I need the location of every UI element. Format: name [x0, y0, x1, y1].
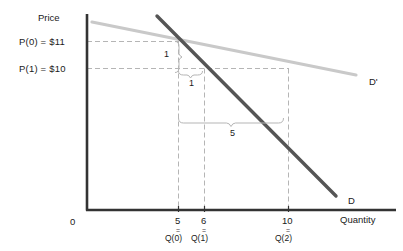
x-tick-name-q2: Q(2): [275, 234, 292, 243]
y-axis-title: Price: [38, 13, 60, 23]
curve-label-d: D: [348, 196, 355, 206]
x-tick-name-q1: Q(1): [191, 234, 208, 243]
x-tick-name-q0: Q(0): [165, 234, 182, 243]
annotation-qty-delta-large: 5: [230, 129, 235, 138]
curve-label-d-prime: D': [369, 77, 378, 87]
price-label-p1: P(1) = $10: [19, 64, 66, 74]
x-tick-label-10: 10: [282, 216, 293, 226]
price-label-p0: P(0) = $11: [19, 37, 65, 47]
x-axis-title: Quantity: [340, 215, 375, 225]
x-tick-label-5: 5: [175, 216, 180, 226]
origin-label: 0: [70, 217, 75, 227]
annotation-price-delta: 1: [164, 50, 169, 59]
x-tick-label-6: 6: [201, 216, 206, 226]
annotation-qty-delta-small: 1: [189, 79, 194, 88]
